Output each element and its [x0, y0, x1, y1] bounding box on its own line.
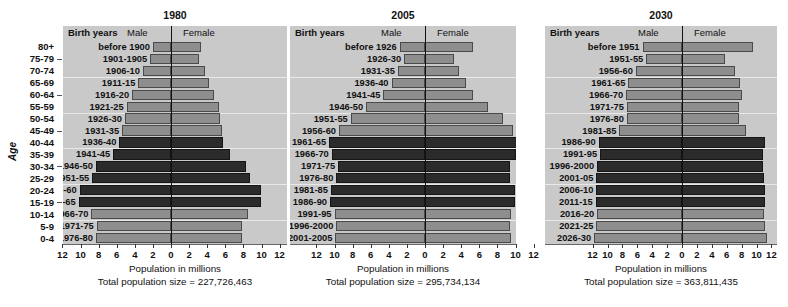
bar-female — [682, 221, 765, 231]
bar-male — [125, 113, 171, 123]
panel-title: 2030 — [545, 9, 777, 21]
bar-male — [132, 90, 171, 100]
x-tick-mark — [353, 244, 354, 248]
bar-male — [626, 90, 682, 100]
birth-years-label: 1966-70 — [63, 209, 88, 219]
bar-male — [80, 185, 171, 195]
x-axis-title: Population in millions — [290, 263, 516, 274]
birth-years-label: 1971-75 — [590, 102, 624, 112]
pyramid-row: 1966-70 — [545, 89, 777, 101]
column-header-row: Birth yearsMaleFemale — [545, 27, 777, 41]
bar-female — [425, 209, 511, 219]
birth-years-label: 1986-90 — [561, 137, 595, 147]
age-tick-mark — [57, 95, 62, 96]
x-tick-label: 2 — [434, 249, 452, 260]
bar-female — [682, 54, 725, 64]
birth-years-label: 1936-40 — [82, 137, 116, 147]
bar-female — [425, 233, 511, 243]
age-tick-mark — [57, 59, 62, 60]
x-tick-label: 10 — [326, 249, 344, 260]
bar-male — [597, 161, 682, 171]
bar-female — [425, 102, 488, 112]
age-tick-mark — [57, 131, 62, 132]
birth-years-label: 1946-50 — [63, 161, 93, 171]
bar-male — [150, 54, 171, 64]
x-tick-label: 6 — [216, 249, 234, 260]
pyramid-row: 1971-75 — [63, 220, 287, 232]
birth-years-label: 1991-95 — [297, 209, 331, 219]
bar-female — [682, 113, 739, 123]
bar-female — [171, 125, 222, 135]
pyramid-row: 1981-85 — [290, 184, 516, 196]
pyramid-row: 1926-30 — [63, 113, 287, 125]
bar-male — [335, 209, 426, 219]
bar-male — [329, 137, 425, 147]
pyramid-panel-1980: 1980Birth yearsMaleFemalebefore 19001901… — [63, 0, 287, 307]
x-tick-label: 12 — [271, 249, 289, 260]
birth-years-label: 1941-45 — [346, 90, 380, 100]
x-tick-mark — [479, 244, 480, 248]
birth-years-label: 2026-30 — [557, 233, 591, 243]
pyramid-row: 1901-1905 — [63, 53, 287, 65]
pyramid-row: before 1900 — [63, 41, 287, 53]
bar-male — [404, 54, 425, 64]
birth-years-label: 1916-20 — [95, 90, 129, 100]
header-male: Male — [127, 27, 148, 38]
birth-years-label: 1991-95 — [563, 149, 597, 159]
x-tick-label: 4 — [198, 249, 216, 260]
birth-years-label: 2016-20 — [560, 209, 594, 219]
bar-female — [171, 113, 220, 123]
birth-years-label: 1946-50 — [329, 102, 363, 112]
birth-years-label: 1976-80 — [299, 173, 333, 183]
zero-axis-line — [682, 26, 683, 244]
birth-years-label: 1966-70 — [589, 90, 623, 100]
column-header-row: Birth yearsMaleFemale — [290, 27, 516, 41]
bar-male — [336, 173, 425, 183]
bar-male — [596, 221, 682, 231]
bar-female — [425, 161, 510, 171]
x-tick-mark — [622, 244, 623, 248]
x-tick-label: 6 — [470, 249, 488, 260]
birth-years-label: 1981-85 — [294, 185, 328, 195]
x-tick-mark — [389, 244, 390, 248]
pyramid-row: before 1951 — [545, 41, 777, 53]
bar-male — [628, 78, 682, 88]
pyramid-row: 2026-30 — [545, 232, 777, 244]
bar-male — [338, 161, 425, 171]
x-tick-label: 6 — [362, 249, 380, 260]
x-tick-mark — [652, 244, 653, 248]
age-tick-label: 70-74 — [30, 65, 54, 76]
x-axis-line — [63, 244, 287, 245]
age-tick-label: 20-24 — [30, 185, 54, 196]
age-tick-label: 75-79 — [30, 53, 54, 64]
bar-male — [594, 233, 682, 243]
x-tick-label: 8 — [344, 249, 362, 260]
pyramid-row: 1996-2000 — [290, 220, 516, 232]
x-tick-mark — [81, 244, 82, 248]
x-tick-label: 6 — [108, 249, 126, 260]
x-tick-mark — [135, 244, 136, 248]
x-tick-label: 10 — [72, 249, 90, 260]
bar-male — [143, 66, 171, 76]
total-population-label: Total population size = 363,811,435 — [545, 276, 777, 287]
column-header-row: Birth yearsMaleFemale — [63, 27, 287, 41]
x-tick-label: 10 — [253, 249, 271, 260]
x-tick-mark — [262, 244, 263, 248]
bar-female — [682, 102, 739, 112]
birth-years-label: 1936-40 — [354, 78, 388, 88]
x-tick-label: 2 — [144, 249, 162, 260]
bar-female — [682, 125, 746, 135]
bar-male — [596, 185, 682, 195]
birth-years-label: 1951-55 — [63, 173, 89, 183]
birth-years-label: 1996-2000 — [290, 221, 333, 231]
birth-years-label: 1951-55 — [609, 54, 643, 64]
x-tick-mark — [534, 244, 535, 248]
bar-male — [351, 113, 425, 123]
bar-male — [91, 209, 171, 219]
birth-years-label: 1971-75 — [63, 221, 94, 231]
x-tick-mark — [637, 244, 638, 248]
birth-years-label: 2011-15 — [559, 197, 593, 207]
age-tick-label: 5-9 — [40, 221, 54, 232]
pyramid-row: 1966-70 — [63, 208, 287, 220]
pyramid-row: 1956-60 — [290, 125, 516, 137]
